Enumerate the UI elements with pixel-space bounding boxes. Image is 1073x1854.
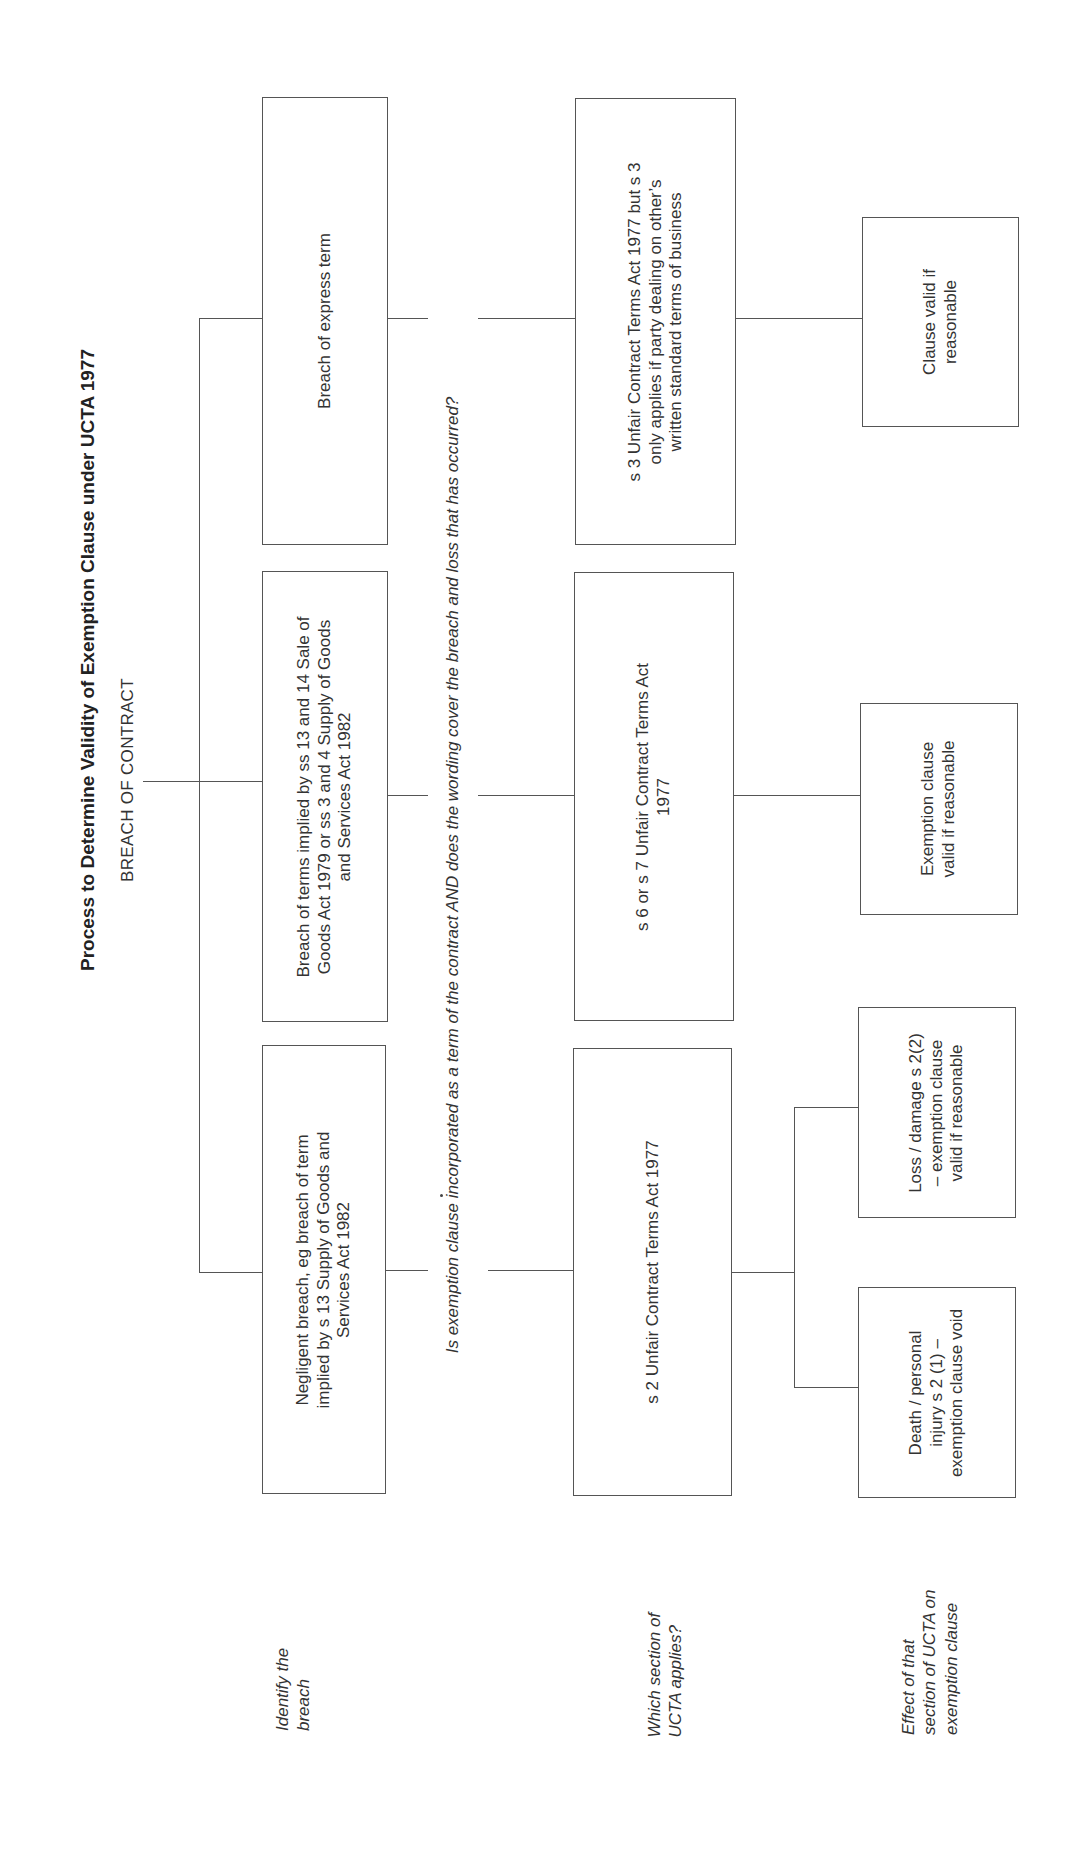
section-s3-box: s 3 Unfair Contract Terms Act 1977 but s… bbox=[575, 98, 736, 545]
effect-exemption-valid-box: Exemption clause valid if reasonable bbox=[860, 703, 1018, 915]
breach-negligent-text: Negligent breach, eg breach of term impl… bbox=[293, 1120, 355, 1420]
branch-to-death-connector bbox=[794, 1387, 859, 1388]
effect-loss-text: Loss / damage s 2(2) – exemption clause … bbox=[906, 1028, 968, 1198]
diagram-title-container: Process to Determine Validity of Exempti… bbox=[74, 380, 102, 940]
row-label-which-section-container: Which section of UCTA applies? bbox=[622, 1590, 708, 1750]
effect-clause-valid-text: Clause valid if reasonable bbox=[920, 257, 961, 387]
stray-dot bbox=[440, 1194, 443, 1197]
breach-negligent-box: Negligent breach, eg breach of term impl… bbox=[262, 1045, 386, 1494]
breach-implied-text: Breach of terms implied by ss 13 and 14 … bbox=[294, 611, 356, 983]
breach-express-text: Breach of express term bbox=[315, 121, 336, 521]
incorporation-question: Is exemption clause incorporated as a te… bbox=[443, 397, 464, 1354]
root-label-container: BREACH OF CONTRACT bbox=[116, 660, 140, 900]
section-s6-s7-text: s 6 or s 7 Unfair Contract Terms Act 197… bbox=[633, 647, 674, 947]
implied-to-s6s7-connector-b bbox=[478, 795, 575, 796]
section-s6-s7-box: s 6 or s 7 Unfair Contract Terms Act 197… bbox=[574, 572, 734, 1021]
row-label-identify: Identify the breach bbox=[272, 1619, 315, 1731]
row-label-which-section: Which section of UCTA applies? bbox=[644, 1603, 687, 1738]
effect-loss-box: Loss / damage s 2(2) – exemption clause … bbox=[858, 1007, 1016, 1218]
breach-implied-box: Breach of terms implied by ss 13 and 14 … bbox=[262, 571, 388, 1022]
row-label-effect-container: Effect of that section of UCTA on exempt… bbox=[876, 1565, 984, 1755]
express-to-s3-connector-b bbox=[478, 318, 575, 319]
breach-express-box: Breach of express term bbox=[262, 97, 388, 545]
trunk-line bbox=[199, 318, 200, 1273]
negligent-to-s2-connector-b bbox=[488, 1270, 574, 1271]
s2-branch-line bbox=[794, 1107, 795, 1388]
s3-to-clause-valid-connector bbox=[736, 318, 862, 319]
trunk-to-express bbox=[199, 318, 263, 319]
question-container: Is exemption clause incorporated as a te… bbox=[440, 250, 466, 1500]
trunk-to-negligent bbox=[199, 1272, 263, 1273]
negligent-to-s2-connector-a bbox=[386, 1270, 428, 1271]
s2-to-branch-connector bbox=[732, 1272, 794, 1273]
section-s2-text: s 2 Unfair Contract Terms Act 1977 bbox=[642, 1122, 663, 1422]
root-connector bbox=[143, 781, 263, 782]
effect-death-box: Death / personal injury s 2 (1) – exempt… bbox=[858, 1287, 1016, 1498]
row-label-identify-container: Identify the breach bbox=[268, 1600, 318, 1750]
effect-death-text: Death / personal injury s 2 (1) – exempt… bbox=[906, 1308, 968, 1478]
diagram-title: Process to Determine Validity of Exempti… bbox=[76, 349, 99, 971]
implied-to-s6s7-connector-a bbox=[388, 795, 428, 796]
express-to-s3-connector-a bbox=[388, 318, 428, 319]
branch-to-loss-connector bbox=[794, 1107, 859, 1108]
s6s7-to-exemption-valid-connector bbox=[734, 795, 861, 796]
effect-exemption-valid-text: Exemption clause valid if reasonable bbox=[918, 734, 959, 884]
root-label: BREACH OF CONTRACT bbox=[118, 678, 139, 882]
effect-clause-valid-box: Clause valid if reasonable bbox=[862, 217, 1019, 427]
section-s2-box: s 2 Unfair Contract Terms Act 1977 bbox=[573, 1048, 732, 1496]
row-label-effect: Effect of that section of UCTA on exempt… bbox=[898, 1585, 962, 1735]
section-s3-text: s 3 Unfair Contract Terms Act 1977 but s… bbox=[624, 157, 686, 487]
